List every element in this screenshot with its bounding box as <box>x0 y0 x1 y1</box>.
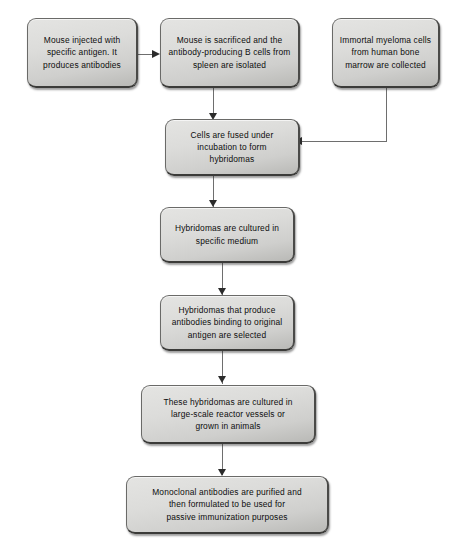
node-myeloma-cells[interactable]: Immortal myeloma cells from human bone m… <box>332 18 440 88</box>
edge-myeloma-to-fused-vertical <box>386 87 387 141</box>
node-reactor-vessels[interactable]: These hybridomas are cultured in large-s… <box>141 385 316 444</box>
node-hybridomas-selected-label: Hybridomas that produce antibodies bindi… <box>167 304 287 341</box>
flowchart-canvas: Mouse injected with specific antigen. It… <box>0 0 465 554</box>
edge-injected-to-sacrificed-arrowhead <box>152 50 160 58</box>
node-mouse-sacrificed[interactable]: Mouse is sacrificed and the antibody-pro… <box>160 18 300 88</box>
node-mouse-injected[interactable]: Mouse injected with specific antigen. It… <box>27 18 138 88</box>
node-mouse-sacrificed-label: Mouse is sacrificed and the antibody-pro… <box>167 34 292 71</box>
node-hybridomas-cultured[interactable]: Hybridomas are cultured in specific medi… <box>160 207 295 263</box>
edge-fused-to-cultured-arrowhead <box>209 200 217 207</box>
node-hybridomas-cultured-label: Hybridomas are cultured in specific medi… <box>167 222 287 246</box>
node-antibodies-purified[interactable]: Monoclonal antibodies are purified and t… <box>126 476 329 534</box>
node-reactor-vessels-label: These hybridomas are cultured in large-s… <box>148 396 308 433</box>
node-antibodies-purified-label: Monoclonal antibodies are purified and t… <box>133 486 321 523</box>
edge-myeloma-to-fused-horizontal <box>300 141 387 142</box>
node-mouse-injected-label: Mouse injected with specific antigen. It… <box>34 34 130 71</box>
node-cells-fused-label: Cells are fused under incubation to form… <box>172 129 292 166</box>
node-cells-fused[interactable]: Cells are fused under incubation to form… <box>165 119 300 176</box>
node-hybridomas-selected[interactable]: Hybridomas that produce antibodies bindi… <box>160 295 295 351</box>
edge-selected-to-reactor-arrowhead <box>218 376 226 383</box>
edge-reactor-to-purified-arrowhead <box>218 469 226 476</box>
edge-cultured-to-selected-arrowhead <box>218 288 226 295</box>
node-myeloma-cells-label: Immortal myeloma cells from human bone m… <box>339 34 432 71</box>
